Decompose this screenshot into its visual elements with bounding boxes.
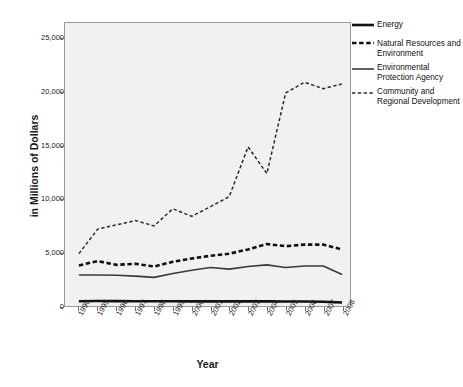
y-tick-label: 25,000 [18,33,64,42]
y-tick-label: 10,000 [18,194,64,203]
dashed-thick-line-icon [352,37,374,53]
legend-item[interactable]: Natural Resources and Environment [352,37,463,58]
series-line [79,82,342,253]
legend-item[interactable]: Energy [352,18,463,34]
legend-item-label: Community and Regional Development [377,85,463,106]
chart-legend: EnergyNatural Resources and EnvironmentE… [352,18,463,110]
y-tick-label: 20,000 [18,87,64,96]
legend-item-label: Environmental Protection Agency [377,61,463,82]
solid-thin-line-icon [352,61,374,77]
plot-area [64,22,351,307]
legend-item[interactable]: Community and Regional Development [352,85,463,106]
legend-item-label: Natural Resources and Environment [377,37,463,58]
y-tick-label: 15,000 [18,141,64,150]
series-line [79,244,342,266]
y-axis: 05,00010,00015,00020,00025,000 [12,22,64,307]
solid-thick-line-icon [352,18,374,34]
series-line [79,265,342,278]
legend-item-label: Energy [377,18,403,30]
x-axis-title: Year [64,358,351,370]
legend-item[interactable]: Environmental Protection Agency [352,61,463,82]
y-tick-label: 5,000 [18,248,64,257]
y-tick-label: 0 [18,302,64,311]
series-lines [65,23,350,306]
dashed-thin-line-icon [352,85,374,101]
line-chart: in Millions of Dollars 05,00010,00015,00… [0,0,463,387]
